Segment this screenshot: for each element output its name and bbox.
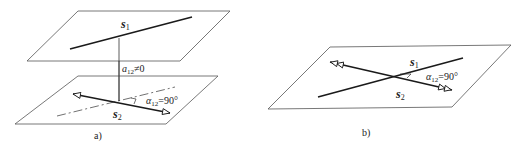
label-s2: s2 <box>112 107 122 122</box>
caption-b: b) <box>362 127 370 139</box>
right-angle-mark <box>131 98 136 104</box>
panel-b: s1 α12=90° s2 b) <box>268 45 511 139</box>
panel-a: s1 a12≠0 α12=90° s2 a) <box>15 11 230 142</box>
label-angle-b: α12=90° <box>426 71 458 84</box>
caption-a: a) <box>94 130 102 142</box>
label-distance: a12≠0 <box>122 63 145 76</box>
label-angle: α12=90° <box>146 95 178 108</box>
upper-plane <box>27 11 230 61</box>
figure-canvas: s1 a12≠0 α12=90° s2 a) s1 α12=90° s2 b) <box>0 0 518 149</box>
label-s2-b: s2 <box>395 87 405 102</box>
label-s1-b: s1 <box>409 55 419 70</box>
